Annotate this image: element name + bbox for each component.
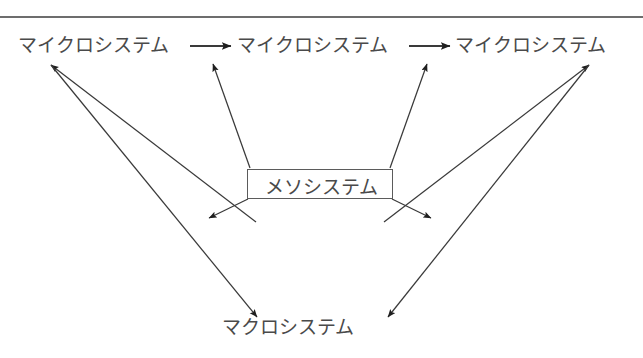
node-label-microsystem-right: マイクロシステム: [455, 36, 606, 55]
arrow-meso-to-micro2-right: [390, 64, 427, 168]
arrow-meso-down-left: [209, 199, 248, 218]
node-label-microsystem-left: マイクロシステム: [18, 36, 169, 55]
node-label-mesosystem: メソシステム: [248, 170, 394, 200]
mesosystem-box: メソシステム: [247, 169, 393, 199]
diagram-page: マイクロシステム マイクロシステム マイクロシステム メソシステム マクロシステ…: [0, 0, 643, 358]
arrow-meso-down-right: [392, 199, 431, 218]
node-label-macrosystem: マクロシステム: [222, 318, 354, 337]
arrow-meso-to-micro2: [213, 64, 250, 168]
arrow-meso-to-micro3: [384, 65, 589, 222]
arrow-micro1-to-macro: [51, 65, 257, 317]
arrow-meso-to-micro1: [51, 65, 256, 222]
node-label-microsystem-center: マイクロシステム: [237, 36, 388, 55]
arrow-micro3-to-macro: [388, 65, 589, 317]
